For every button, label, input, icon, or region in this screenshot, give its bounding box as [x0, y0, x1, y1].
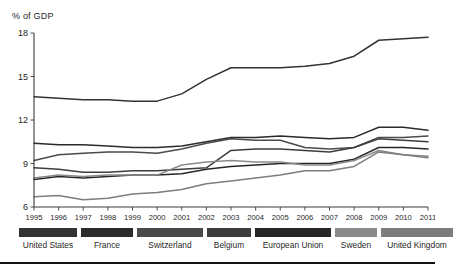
x-tick-label: 2008 [346, 213, 363, 222]
legend-color-swatch [381, 228, 453, 237]
legend-item-label: United States [19, 240, 77, 250]
x-tick-label: 2007 [321, 213, 338, 222]
legend-item[interactable]: Switzerland [137, 228, 203, 250]
x-tick-label: 2011 [420, 213, 435, 222]
x-tick-label: 2010 [395, 213, 412, 222]
y-tick-label: 9 [23, 159, 28, 169]
legend-item[interactable]: United Kingdom [381, 228, 453, 250]
x-tick-label: 2002 [198, 213, 215, 222]
legend-item-label: France [81, 240, 133, 250]
y-tick-label: 15 [18, 72, 28, 82]
legend-item[interactable]: European Union [255, 228, 331, 250]
series-line-sweden [34, 150, 428, 178]
legend-item-label: European Union [255, 240, 331, 250]
x-tick-label: 2000 [149, 213, 166, 222]
x-tick-label: 2009 [370, 213, 387, 222]
x-tick-label: 2004 [247, 213, 264, 222]
x-tick-label: 2005 [272, 213, 289, 222]
legend-color-swatch [137, 228, 203, 237]
legend-color-swatch [81, 228, 133, 237]
series-line-belgium [34, 139, 428, 172]
x-tick-label: 1995 [26, 213, 43, 222]
x-tick-label: 1999 [124, 213, 141, 222]
x-tick-label: 1996 [50, 213, 67, 222]
legend-item[interactable]: Sweden [335, 228, 377, 250]
line-chart-plot: 69121518 1995199619971998199920002001200… [0, 0, 435, 228]
x-tick-label: 2006 [296, 213, 313, 222]
legend-item-label: Belgium [207, 240, 251, 250]
legend-item[interactable]: France [81, 228, 133, 250]
legend-color-swatch [335, 228, 377, 237]
x-tick-label: 2001 [173, 213, 190, 222]
y-tick-label: 18 [18, 28, 28, 38]
series-line-france [34, 127, 428, 147]
legend-item-label: United Kingdom [381, 240, 453, 250]
legend-item-label: Switzerland [137, 240, 203, 250]
bottom-divider [0, 262, 435, 264]
x-tick-label: 1997 [75, 213, 92, 222]
legend: United StatesFranceSwitzerlandBelgiumEur… [0, 228, 435, 258]
series-line-united-states [34, 37, 428, 101]
y-tick-label: 12 [18, 115, 28, 125]
series-lines [34, 37, 428, 199]
legend-color-swatch [255, 228, 331, 237]
legend-item[interactable]: Belgium [207, 228, 251, 250]
legend-color-swatch [19, 228, 77, 237]
legend-color-swatch [207, 228, 251, 237]
y-tick-label: 6 [23, 202, 28, 212]
legend-item-label: Sweden [335, 240, 377, 250]
y-axis-ticks: 69121518 [18, 28, 34, 212]
x-tick-label: 1998 [99, 213, 116, 222]
x-tick-label: 2003 [223, 213, 240, 222]
x-axis-ticks: 1995199619971998199920002001200220032004… [26, 207, 435, 222]
legend-item[interactable]: United States [19, 228, 77, 250]
